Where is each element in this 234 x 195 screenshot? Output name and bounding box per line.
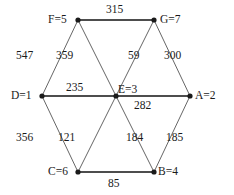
edge-weight-a-b: 185 (166, 132, 183, 144)
edge-weight-f-g: 315 (106, 4, 123, 16)
graph-node-a (187, 93, 192, 98)
edge-weight-d-c: 356 (16, 132, 33, 144)
node-label-c: C=6 (48, 166, 68, 178)
node-label-f: F=5 (48, 14, 67, 26)
graph-diagram: F=5G=7D=1E=3A=2C=6B=4 315547359593002352… (0, 0, 234, 195)
graph-edge (78, 96, 116, 172)
edge-weight-f-e: 359 (56, 50, 73, 62)
edge-weight-e-a: 282 (134, 100, 151, 112)
edge-weight-d-e: 235 (66, 82, 83, 94)
node-label-b: B=4 (158, 166, 178, 178)
edge-weight-g-e: 59 (128, 50, 140, 62)
graph-edge (78, 20, 116, 96)
node-label-d: D=1 (11, 90, 32, 102)
graph-node-g (151, 17, 156, 22)
edge-weight-e-c: 121 (58, 132, 75, 144)
edge-weight-e-b: 184 (126, 132, 143, 144)
edge-weight-g-a: 300 (164, 50, 181, 62)
edge-weight-d-f: 547 (16, 50, 33, 62)
graph-node-d (39, 93, 44, 98)
node-label-a: A=2 (195, 90, 216, 102)
edge-weight-c-b: 85 (108, 178, 120, 190)
graph-node-f (75, 17, 80, 22)
graph-node-c (75, 169, 80, 174)
node-label-e: E=3 (118, 84, 137, 96)
graph-node-b (151, 169, 156, 174)
node-label-g: G=7 (160, 14, 181, 26)
